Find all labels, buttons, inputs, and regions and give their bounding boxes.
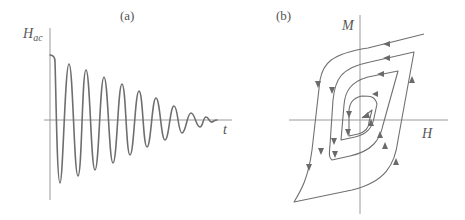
panel-a: (a) Hac t	[22, 8, 232, 200]
arrow-down-icon	[315, 81, 321, 88]
arrow-down-icon	[331, 138, 337, 145]
arrow-left-icon	[383, 41, 390, 47]
hysteresis-spiral	[294, 34, 424, 202]
panel-b-label: (b)	[276, 8, 291, 23]
arrow-up-icon	[377, 131, 383, 138]
panel-a-label: (a)	[120, 8, 134, 23]
arrow-left-icon	[372, 91, 378, 97]
panel-b-x-label: H	[421, 126, 433, 141]
arrow-down-icon	[346, 111, 352, 118]
y-label-sub: ac	[33, 32, 43, 43]
damped-oscillation-curve	[50, 55, 217, 183]
arrow-left-icon	[377, 71, 384, 77]
panel-a-y-label: Hac	[22, 26, 43, 43]
figure: (a) Hac t (b) M H	[0, 0, 465, 220]
panel-b-y-label: M	[341, 18, 355, 33]
arrow-up-icon	[382, 142, 388, 149]
arrow-down-icon	[306, 164, 312, 171]
panel-b: (b) M H	[276, 8, 448, 214]
arrow-down-icon	[332, 151, 338, 158]
arrow-left-icon	[383, 55, 390, 61]
arrow-down-icon	[345, 129, 351, 136]
panel-a-x-label: t	[223, 122, 228, 137]
arrow-down-icon	[318, 148, 324, 155]
